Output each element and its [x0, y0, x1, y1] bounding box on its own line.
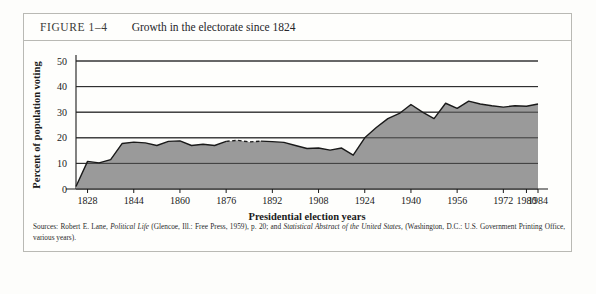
- sources-italic-statistical-abstract: Statistical Abstract of the United State…: [284, 222, 403, 231]
- figure-header: FIGURE 1–4 Growth in the electorate sinc…: [24, 14, 571, 41]
- y-tick-label-20: 20: [57, 132, 67, 143]
- figure-page: FIGURE 1–4 Growth in the electorate sinc…: [0, 0, 596, 294]
- x-tick-label-1956: 1956: [447, 195, 467, 206]
- y-axis-title: Percent of population voting: [31, 61, 42, 189]
- x-tick-label-1924: 1924: [355, 195, 375, 206]
- area-fill: [76, 101, 538, 189]
- chart-plot-area: 01020304050Percent of population voting1…: [24, 41, 571, 224]
- x-tick-label-1908: 1908: [309, 195, 329, 206]
- sources-text-a: Sources: Robert E. Lane,: [33, 222, 110, 231]
- figure-number: FIGURE 1–4: [40, 21, 108, 33]
- y-tick-label-30: 30: [57, 107, 67, 118]
- x-tick-label-1892: 1892: [262, 195, 282, 206]
- y-tick-label-40: 40: [57, 81, 67, 92]
- x-tick-label-1972: 1972: [493, 195, 513, 206]
- x-tick-label-1860: 1860: [170, 195, 190, 206]
- x-axis-title: Presidential election years: [248, 211, 365, 222]
- figure-sources: Sources: Robert E. Lane, Political Life …: [29, 222, 569, 244]
- x-tick-label-1828: 1828: [78, 195, 98, 206]
- x-tick-label-1876: 1876: [216, 195, 236, 206]
- figure-box: FIGURE 1–4 Growth in the electorate sinc…: [23, 13, 572, 252]
- sources-italic-political-life: Political Life: [110, 222, 149, 231]
- y-tick-label-10: 10: [57, 158, 67, 169]
- x-tick-label-1984: 1984: [528, 195, 548, 206]
- y-tick-label-50: 50: [57, 56, 67, 67]
- electorate-area-chart: 01020304050Percent of population voting1…: [24, 41, 571, 224]
- figure-title: Growth in the electorate since 1824: [132, 21, 296, 33]
- sources-text-b: (Glencoe, Ill.: Free Press, 1959), p. 20…: [149, 222, 284, 231]
- x-tick-label-1844: 1844: [124, 195, 144, 206]
- x-tick-label-1940: 1940: [401, 195, 421, 206]
